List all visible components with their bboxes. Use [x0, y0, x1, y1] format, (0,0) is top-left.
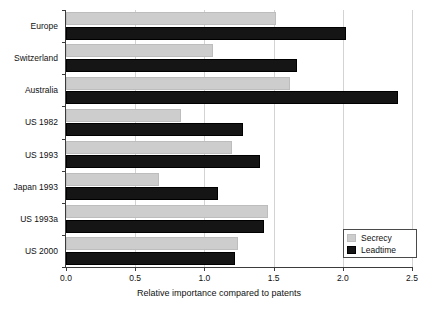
bar-leadtime — [66, 59, 297, 72]
chart-legend: Secrecy Leadtime — [343, 229, 417, 258]
bar-secrecy — [66, 173, 159, 186]
x-axis-tick-label: 2.0 — [323, 273, 363, 283]
y-axis-tick-label: US 1982 — [25, 117, 58, 127]
bar-secrecy — [66, 12, 276, 25]
bar-secrecy — [66, 109, 181, 122]
bar-leadtime — [66, 27, 346, 40]
bar-leadtime — [66, 187, 218, 200]
bar-secrecy — [66, 205, 268, 218]
bar-secrecy — [66, 237, 238, 250]
y-axis-tick-label: US 2000 — [25, 246, 58, 256]
legend-label-leadtime: Leadtime — [361, 245, 396, 256]
y-axis-tick-label: Australia — [25, 85, 58, 95]
y-axis-tick-label: US 1993 — [25, 150, 58, 160]
x-axis-tick — [135, 267, 136, 271]
x-axis-tick — [274, 267, 275, 271]
bar-secrecy — [66, 44, 213, 57]
bar-leadtime — [66, 91, 398, 104]
bar-leadtime — [66, 155, 260, 168]
bar-secrecy — [66, 77, 290, 90]
x-axis-tick — [412, 267, 413, 271]
x-axis-tick — [66, 267, 67, 271]
x-axis-tick-label: 0.0 — [46, 273, 86, 283]
bar-leadtime — [66, 220, 264, 233]
bar-chart-figure: EuropeSwitzerlandAustraliaUS 1982US 1993… — [0, 0, 438, 311]
y-axis-tick-labels: EuropeSwitzerlandAustraliaUS 1982US 1993… — [0, 10, 62, 267]
x-axis-tick-label: 0.5 — [115, 273, 155, 283]
legend-item-secrecy[interactable]: Secrecy — [347, 232, 413, 244]
x-axis-tick — [343, 267, 344, 271]
bar-secrecy — [66, 141, 232, 154]
x-axis-tick-label: 2.5 — [392, 273, 432, 283]
x-axis-line — [65, 267, 413, 268]
x-axis-title: Relative importance compared to patents — [0, 288, 438, 298]
bar-leadtime — [66, 123, 243, 136]
bar-leadtime — [66, 252, 235, 265]
y-axis-tick-label: Japan 1993 — [14, 182, 58, 192]
y-axis-tick-label: Switzerland — [14, 53, 58, 63]
legend-item-leadtime[interactable]: Leadtime — [347, 244, 413, 256]
legend-label-secrecy: Secrecy — [361, 233, 392, 244]
y-axis-tick-label: US 1993a — [20, 214, 58, 224]
y-axis-tick-label: Europe — [31, 21, 58, 31]
legend-swatch-leadtime-icon — [347, 246, 356, 254]
x-axis-tick-label: 1.0 — [184, 273, 224, 283]
legend-swatch-secrecy-icon — [347, 234, 356, 242]
x-axis-tick — [204, 267, 205, 271]
x-axis-tick-label: 1.5 — [254, 273, 294, 283]
